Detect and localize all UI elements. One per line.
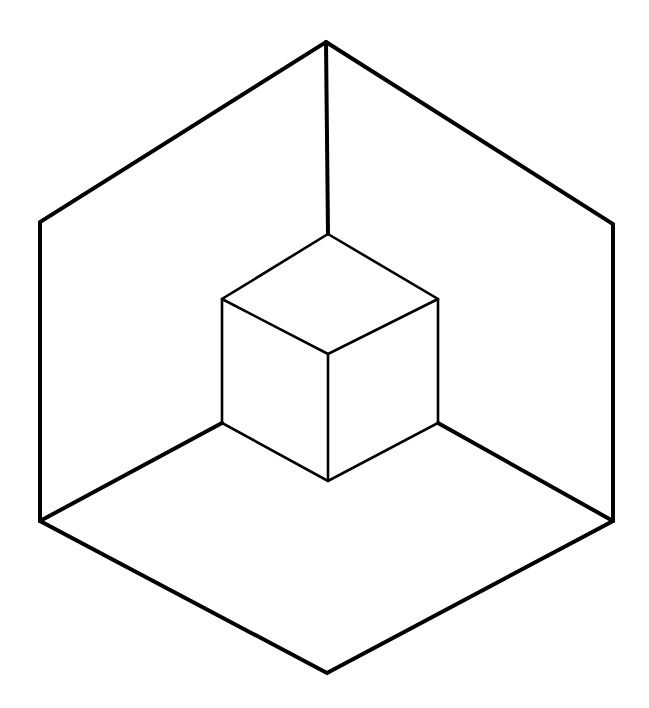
back-vertical-edge bbox=[326, 42, 328, 234]
floor-left-edge bbox=[40, 423, 222, 521]
nested-cube-diagram bbox=[0, 0, 649, 708]
cube-silhouette bbox=[222, 234, 438, 481]
inner-cube bbox=[222, 234, 438, 481]
outer-box bbox=[40, 42, 613, 673]
floor-right-edge bbox=[438, 423, 613, 521]
cube-front-edges bbox=[222, 299, 438, 354]
